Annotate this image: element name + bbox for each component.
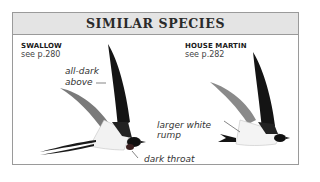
annotation-dark-throat: dark throat bbox=[144, 154, 194, 164]
species-name-swallow: SWALLOW bbox=[21, 42, 62, 50]
annotation-above: above bbox=[65, 77, 93, 87]
species-name-house-martin: HOUSE MARTIN bbox=[185, 42, 247, 50]
annotation-larger-white: larger white bbox=[157, 120, 211, 130]
annotation-all-dark: all-dark bbox=[65, 66, 99, 76]
species-ref-swallow: see p.280 bbox=[21, 50, 60, 59]
swallow-illustration bbox=[40, 44, 146, 155]
annotation-rump: rump bbox=[157, 130, 181, 140]
species-ref-house-martin: see p.282 bbox=[185, 50, 224, 59]
house-martin-illustration bbox=[210, 52, 290, 146]
